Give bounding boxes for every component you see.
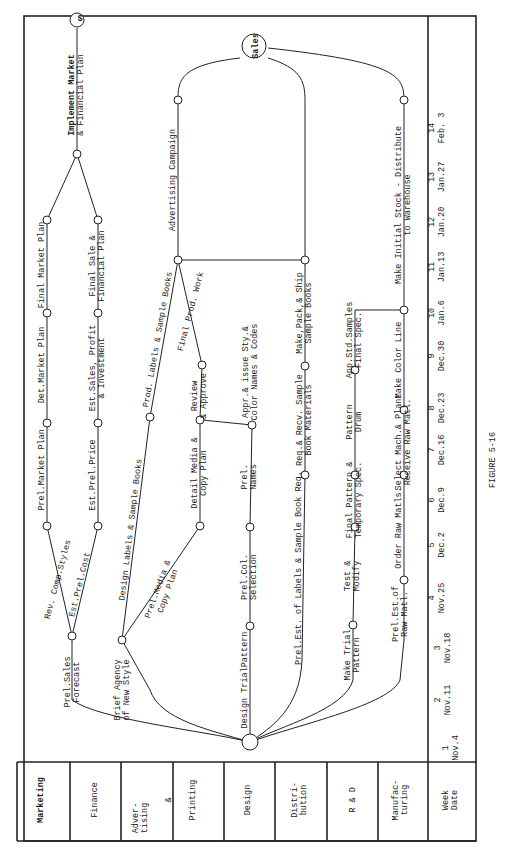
svg-text:12: 12 — [427, 217, 437, 227]
svg-text:8: 8 — [427, 405, 437, 410]
sales-node-label: Sales — [251, 33, 261, 59]
svg-text:7: 7 — [427, 447, 437, 452]
timeline-weeks: 1 Nov.4 2 Nov.11 3 Nov.18 4 Nov.25 5 Dec… — [427, 113, 461, 761]
svg-text:Jan.13: Jan.13 — [437, 252, 447, 283]
svg-text:tising: tising — [140, 803, 150, 834]
svg-text:Nov.18: Nov.18 — [443, 633, 453, 664]
lane-finance: Finance — [90, 782, 100, 818]
svg-text:Design TrialPattern: Design TrialPattern — [240, 632, 250, 729]
svg-text:Raw Matl.: Raw Matl. — [400, 591, 410, 637]
svg-text:Dec.9: Dec.9 — [437, 487, 447, 513]
svg-text:& Investment: & Investment — [97, 337, 107, 398]
lane-advertising-printing: Adver- tising & Printing — [131, 780, 198, 834]
svg-text:Prod. Labels & Sample Books: Prod. Labels & Sample Books — [141, 271, 175, 408]
svg-text:1: 1 — [441, 745, 451, 750]
lane-marketing: Marketing — [36, 777, 46, 823]
end-node-label: $ — [77, 14, 82, 24]
svg-text:Book Materials: Book Materials — [304, 384, 314, 455]
svg-text:Order Raw Matls.: Order Raw Matls. — [394, 487, 404, 569]
svg-text:Design Labels & Sample Books: Design Labels & Sample Books — [117, 458, 144, 601]
svg-text:Selection: Selection — [249, 554, 259, 600]
svg-text:2: 2 — [433, 697, 443, 702]
svg-text:Modify: Modify — [352, 561, 362, 592]
svg-text:Color Names & Codes: Color Names & Codes — [250, 324, 260, 421]
svg-text:Nov.25: Nov.25 — [437, 583, 447, 614]
svg-text:Copy Plan: Copy Plan — [199, 450, 209, 496]
svg-text:Prel.Est. of Labels & Sample B: Prel.Est. of Labels & Sample Book Req. — [294, 471, 304, 665]
svg-text:Nov.4: Nov.4 — [451, 735, 461, 761]
svg-text:Printing: Printing — [188, 780, 198, 821]
lane-labels: Marketing Finance Adver- tising & Printi… — [36, 777, 460, 833]
svg-text:Dec.30: Dec.30 — [437, 341, 447, 372]
svg-text:Prel.Market Plan: Prel.Market Plan — [37, 429, 47, 511]
svg-text:3: 3 — [433, 645, 443, 650]
svg-text:Make Color Line: Make Color Line — [394, 322, 404, 399]
svg-text:Est.Prel.Cost: Est.Prel.Cost — [67, 551, 93, 618]
svg-text:9: 9 — [427, 353, 437, 358]
pert-network-diagram: Marketing Finance Adver- tising & Printi… — [0, 0, 507, 849]
svg-text:Final Market Plan: Final Market Plan — [37, 222, 47, 309]
svg-text:Financial Plan: Financial Plan — [97, 230, 107, 301]
svg-text:to Warehouse: to Warehouse — [403, 174, 413, 235]
svg-text:Jan.27: Jan.27 — [437, 162, 447, 193]
svg-text:bution: bution — [299, 785, 309, 816]
svg-text:Dec.16: Dec.16 — [437, 435, 447, 466]
svg-text:Dec.23: Dec.23 — [437, 393, 447, 424]
svg-text:Est.Prel.Price: Est.Prel.Price — [88, 439, 98, 510]
timeline-header: Week Date — [441, 790, 460, 810]
svg-text:& Financial Plan: & Financial Plan — [76, 54, 86, 136]
figure-caption: FIGURE 5-16 — [488, 432, 498, 488]
svg-text:Date: Date — [450, 790, 460, 810]
svg-text:turing: turing — [400, 785, 410, 816]
svg-text:Sample Books: Sample Books — [304, 282, 314, 343]
svg-text:6: 6 — [427, 497, 437, 502]
svg-text:of New Style: of New Style — [122, 659, 132, 720]
svg-text:Pattern: Pattern — [352, 637, 362, 673]
svg-text:Advertising Campaign: Advertising Campaign — [168, 129, 178, 231]
svg-text:&: & — [164, 797, 174, 802]
svg-text:Nov.11: Nov.11 — [443, 685, 453, 716]
lane-rnd: R & D — [348, 787, 358, 813]
svg-text:Temporary Spec.: Temporary Spec. — [354, 462, 364, 539]
svg-text:5: 5 — [427, 542, 437, 547]
svg-text:Feb. 3: Feb. 3 — [437, 113, 447, 144]
svg-text:4: 4 — [427, 595, 437, 600]
svg-text:Det.Market Plan: Det.Market Plan — [37, 327, 47, 404]
svg-text:11: 11 — [427, 262, 437, 272]
svg-text:Final Spec.: Final Spec. — [354, 312, 364, 368]
svg-text:Final Prod. Work: Final Prod. Work — [176, 271, 207, 352]
svg-text:Jan.6: Jan.6 — [437, 300, 447, 326]
lane-distribution: Distri- bution — [290, 782, 309, 818]
svg-text:& Approve: & Approve — [199, 373, 209, 419]
svg-text:13: 13 — [427, 172, 437, 182]
start-node — [242, 734, 258, 750]
lane-design: Design — [243, 785, 253, 816]
svg-text:Forecast: Forecast — [72, 662, 82, 703]
svg-text:Names: Names — [249, 464, 259, 490]
lane-manufacturing: Manufac- turing — [391, 780, 410, 821]
svg-text:14: 14 — [427, 123, 437, 133]
svg-text:10: 10 — [427, 308, 437, 318]
svg-text:Jan.20: Jan.20 — [437, 207, 447, 238]
svg-text:Dec.2: Dec.2 — [437, 532, 447, 558]
svg-text:Receive Raw Matl.: Receive Raw Matl. — [403, 399, 413, 486]
svg-text:Drum: Drum — [354, 412, 364, 432]
